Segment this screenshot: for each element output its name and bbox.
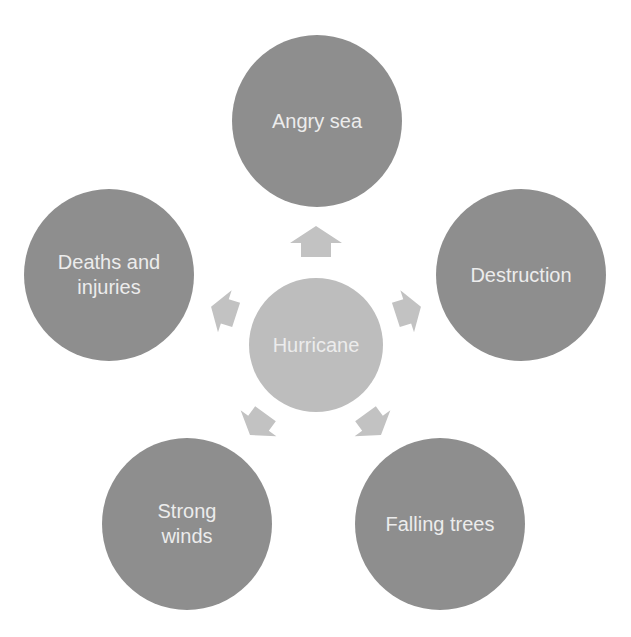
node-label-line: Deaths and [58, 251, 160, 273]
node-destruction: Destruction [436, 189, 606, 361]
node-deaths-and-injuries: Deaths and injuries [24, 189, 194, 361]
arrow-right-icon [389, 286, 428, 336]
node-label-line: injuries [77, 276, 140, 298]
arrow-left-icon [204, 286, 243, 336]
arrow-down-right-icon [348, 401, 399, 448]
arrow-up-icon [290, 226, 342, 257]
node-label-line: winds [161, 525, 212, 547]
node-label: Destruction [462, 263, 579, 288]
arrow-down-left-icon [232, 401, 283, 448]
node-label: Strong winds [150, 499, 225, 549]
hurricane-effects-diagram: Hurricane Angry sea Destruction Falling … [0, 0, 631, 637]
node-label-line: Strong [158, 500, 217, 522]
center-node-label: Hurricane [265, 333, 368, 358]
node-strong-winds: Strong winds [102, 438, 272, 610]
node-angry-sea: Angry sea [232, 35, 402, 207]
center-node-hurricane: Hurricane [249, 278, 383, 412]
node-label: Falling trees [378, 512, 503, 537]
node-falling-trees: Falling trees [355, 438, 525, 610]
node-label: Angry sea [264, 109, 370, 134]
node-label: Deaths and injuries [50, 250, 168, 300]
